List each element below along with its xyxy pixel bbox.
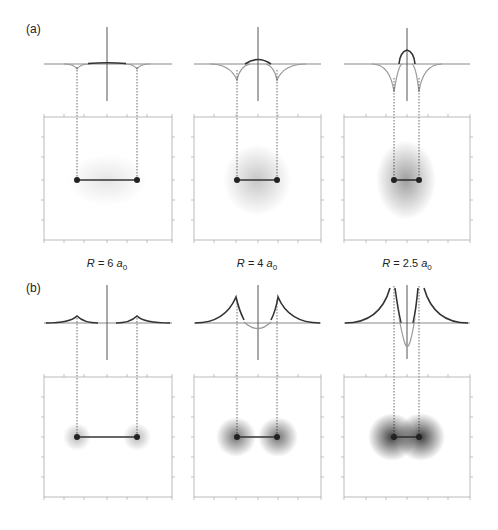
r-label-2_5: R = 2.5 a0: [347, 257, 467, 272]
panel-b-r2_5-density: [344, 377, 470, 497]
r-label-6: R = 6 a0: [47, 257, 167, 272]
panel-a-r4-density: [194, 117, 321, 240]
panel-b-r4-density: [194, 377, 321, 497]
panel-b-r6-density: [44, 377, 172, 497]
panel-a-r6-density: [44, 117, 172, 240]
nucleus-right: [134, 177, 140, 183]
panel-b-r2_5-curve: [344, 285, 470, 437]
panel-b-r6-curve: [44, 285, 172, 437]
panel-b-r4-curve: [194, 285, 321, 437]
nucleus-left: [74, 177, 80, 183]
panel-label-b: (b): [26, 281, 41, 295]
panel-label-a: (a): [26, 22, 41, 36]
panel-a-r2_5-density: [344, 117, 470, 240]
r-label-4: R = 4 a0: [197, 257, 317, 272]
